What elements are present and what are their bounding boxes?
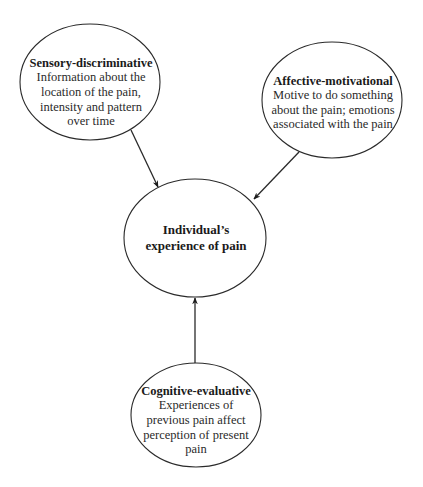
- node-affective-line: about the pain; emotions: [271, 103, 394, 117]
- node-sensory-line: intensity and pattern: [40, 100, 143, 114]
- node-sensory-line: location of the pain,: [41, 85, 141, 99]
- node-affective-title: Affective-motivational: [273, 74, 393, 88]
- pain-model-diagram: Sensory-discriminative Information about…: [0, 0, 423, 487]
- node-sensory-line: over time: [67, 114, 115, 128]
- node-center-line: experience of pain: [145, 238, 247, 253]
- node-cognitive-evaluative: Cognitive-evaluative Experiences of prev…: [131, 363, 261, 467]
- node-cognitive-line: previous pain affect: [146, 413, 246, 427]
- node-cognitive-title: Cognitive-evaluative: [141, 384, 251, 398]
- node-cognitive-line: pain: [185, 442, 207, 456]
- node-sensory-title: Sensory-discriminative: [30, 56, 153, 70]
- node-sensory-discriminative: Sensory-discriminative Information about…: [20, 24, 160, 140]
- node-center-line: Individual’s: [163, 222, 230, 237]
- edge-affective-to-experience: [254, 152, 299, 199]
- node-cognitive-line: Experiences of: [159, 398, 234, 412]
- node-affective-line: Motive to do something: [273, 88, 394, 102]
- node-affective-motivational: Affective-motivational Motive to do some…: [262, 42, 402, 158]
- edge-sensory-to-experience: [131, 130, 158, 187]
- node-individual-experience: Individual’s experience of pain: [124, 179, 266, 297]
- node-cognitive-line: perception of present: [143, 428, 249, 442]
- node-sensory-line: Information about the: [37, 70, 146, 84]
- node-affective-line: associated with the pain: [273, 117, 394, 131]
